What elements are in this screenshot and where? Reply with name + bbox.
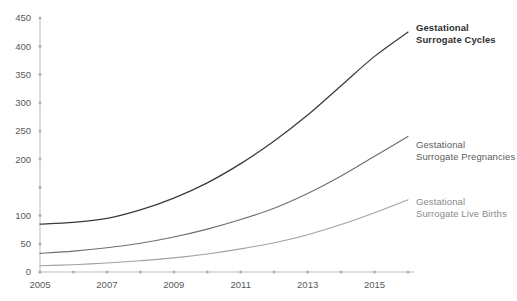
y-tick-dot: [39, 242, 42, 245]
series-label-line2: Surrogate Live Births: [416, 208, 507, 220]
x-tick-label: 2005: [29, 279, 50, 290]
y-axis: 050100200250300350400450: [15, 12, 41, 277]
series-label-line1: Gestational: [416, 22, 496, 34]
series-line-gestational-surrogate-pregnancies: [40, 137, 408, 254]
x-tick-dot: [273, 271, 276, 274]
y-tick-label: 250: [15, 125, 31, 136]
y-tick-dot: [39, 158, 42, 161]
x-tick-dot: [306, 271, 309, 274]
x-tick-dot: [206, 271, 209, 274]
x-tick-label: 2011: [231, 279, 251, 290]
y-tick-label: 200: [15, 154, 31, 165]
series-label-gestational-surrogate-pregnancies: Gestational Surrogate Pregnancies: [416, 139, 515, 162]
y-tick-label: 0: [26, 266, 31, 277]
y-tick-dot: [39, 186, 42, 189]
x-tick-label: 2015: [364, 279, 385, 290]
x-tick-dot: [239, 271, 242, 274]
x-tick-dot: [139, 271, 142, 274]
x-tick-dot: [172, 271, 175, 274]
series-label-line1: Gestational: [416, 139, 515, 151]
y-tick-label: 100: [15, 210, 31, 221]
x-tick-dot: [72, 271, 75, 274]
y-tick-label: 50: [20, 238, 31, 249]
y-tick-label: 350: [15, 69, 31, 80]
series-line-gestational-surrogate-live-births: [40, 200, 408, 266]
y-tick-dot: [39, 17, 42, 20]
series-label-line2: Surrogate Cycles: [416, 34, 496, 46]
series-label-gestational-surrogate-cycles: Gestational Surrogate Cycles: [416, 22, 496, 45]
x-tick-dot: [373, 271, 376, 274]
y-tick-label: 450: [15, 12, 31, 23]
y-tick-dot: [39, 45, 42, 48]
y-tick-dot: [39, 129, 42, 132]
y-tick-dot: [39, 101, 42, 104]
x-tick-label: 2007: [96, 279, 117, 290]
x-tick-label: 2013: [297, 279, 318, 290]
y-tick-dot: [39, 73, 42, 76]
x-tick-dot: [39, 271, 42, 274]
y-tick-label: 300: [15, 97, 31, 108]
x-axis: 200520072009201120132015: [29, 271, 414, 291]
series-label-line2: Surrogate Pregnancies: [416, 151, 515, 163]
x-tick-dot: [105, 271, 108, 274]
x-tick-dot: [407, 271, 410, 274]
y-tick-label: 400: [15, 41, 31, 52]
x-tick-label: 2009: [163, 279, 184, 290]
series-lines: [40, 32, 408, 266]
y-tick-dot: [39, 214, 42, 217]
line-chart: 050100200250300350400450 200520072009201…: [0, 0, 517, 301]
series-label-gestational-surrogate-live-births: Gestational Surrogate Live Births: [416, 196, 507, 219]
x-tick-dot: [340, 271, 343, 274]
series-line-gestational-surrogate-cycles: [40, 32, 408, 224]
series-label-line1: Gestational: [416, 196, 507, 208]
